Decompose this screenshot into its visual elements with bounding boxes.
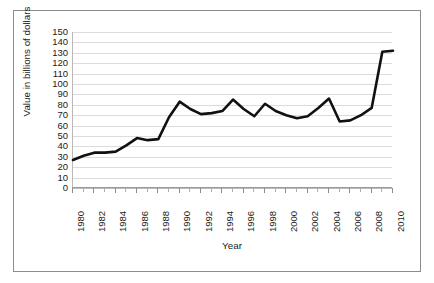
x-axis-tick-mark — [72, 188, 73, 193]
x-axis-tick-label: 2000 — [289, 211, 299, 232]
x-axis-tick-mark — [211, 188, 212, 192]
y-axis-tick-labels: 0102030405060708090100110120130140150 — [40, 32, 68, 188]
x-axis-tick-label: 1986 — [140, 211, 150, 232]
x-axis-tick-mark — [339, 188, 340, 192]
y-axis-tick-label: 30 — [42, 152, 68, 162]
x-axis-tick-label: 1988 — [161, 211, 171, 232]
y-axis-tick-label: 40 — [42, 142, 68, 152]
x-axis-tick-mark — [115, 188, 116, 193]
x-axis-tick-label: 2006 — [353, 211, 363, 232]
x-axis-tick-mark — [275, 188, 276, 192]
y-axis-tick-label: 0 — [42, 183, 68, 193]
y-axis-tick-label: 100 — [42, 79, 68, 89]
series-polyline — [73, 51, 393, 160]
line-series — [73, 32, 393, 188]
x-axis-tick-mark — [307, 188, 308, 193]
x-axis-tick-mark — [221, 188, 222, 193]
x-axis-tick-mark — [371, 188, 372, 193]
plot-area — [72, 32, 392, 188]
x-axis-tick-mark — [264, 188, 265, 193]
x-axis-tick-mark — [157, 188, 158, 193]
x-axis-tick-mark — [328, 188, 329, 193]
x-axis-tick-mark — [360, 188, 361, 192]
x-axis-tick-mark — [125, 188, 126, 192]
x-axis-tick-label: 1980 — [76, 211, 86, 232]
y-axis-tick-label: 90 — [42, 90, 68, 100]
x-axis-tick-mark — [83, 188, 84, 192]
x-axis-tick-label: 1984 — [118, 211, 128, 232]
x-axis-tick-label: 1994 — [225, 211, 235, 232]
y-axis-tick-label: 50 — [42, 131, 68, 141]
x-axis-tick-label: 1996 — [246, 211, 256, 232]
x-axis-tick-mark — [349, 188, 350, 193]
x-axis-tick-mark — [381, 188, 382, 192]
x-axis-tick-mark — [285, 188, 286, 193]
x-axis-tick-mark — [296, 188, 297, 192]
x-axis-tick-mark — [189, 188, 190, 192]
x-axis-tick-label: 1982 — [97, 211, 107, 232]
x-axis-tick-label: 2004 — [332, 211, 342, 232]
x-axis-tick-label: 2002 — [310, 211, 320, 232]
x-axis-tick-label: 1992 — [204, 211, 214, 232]
x-axis-tick-mark — [200, 188, 201, 193]
x-axis-tick-mark — [243, 188, 244, 193]
x-axis-tick-label: 1990 — [182, 211, 192, 232]
y-axis-tick-label: 110 — [42, 69, 68, 79]
x-axis-tick-mark — [179, 188, 180, 193]
y-axis-tick-label: 140 — [42, 38, 68, 48]
x-axis-title: Year — [72, 240, 392, 251]
x-axis-tick-label: 1998 — [268, 211, 278, 232]
y-axis-tick-label: 150 — [42, 27, 68, 37]
x-axis-tick-labels: 1980198219841986198819901992199419961998… — [72, 194, 392, 238]
chart-figure: Value in billions of dollars 01020304050… — [0, 0, 434, 283]
x-axis-tick-mark — [104, 188, 105, 192]
y-axis-title: Value in billions of dollars — [21, 0, 32, 132]
x-axis-tick-mark — [232, 188, 233, 192]
y-axis-tick-label: 70 — [42, 110, 68, 120]
x-axis-tick-mark — [392, 188, 393, 193]
y-axis-tick-label: 130 — [42, 48, 68, 58]
x-axis-tick-label: 2010 — [396, 211, 406, 232]
y-axis-tick-label: 120 — [42, 58, 68, 68]
y-axis-tick-label: 10 — [42, 173, 68, 183]
x-axis-tick-mark — [253, 188, 254, 192]
y-axis-tick-label: 80 — [42, 100, 68, 110]
y-axis-tick-label: 60 — [42, 121, 68, 131]
x-axis-tick-mark — [136, 188, 137, 193]
x-axis-tick-marks — [72, 188, 392, 193]
y-axis-tick-label: 20 — [42, 162, 68, 172]
x-axis-tick-mark — [317, 188, 318, 192]
x-axis-tick-mark — [168, 188, 169, 192]
x-axis-tick-mark — [93, 188, 94, 193]
x-axis-tick-mark — [147, 188, 148, 192]
x-axis-tick-label: 2008 — [374, 211, 384, 232]
